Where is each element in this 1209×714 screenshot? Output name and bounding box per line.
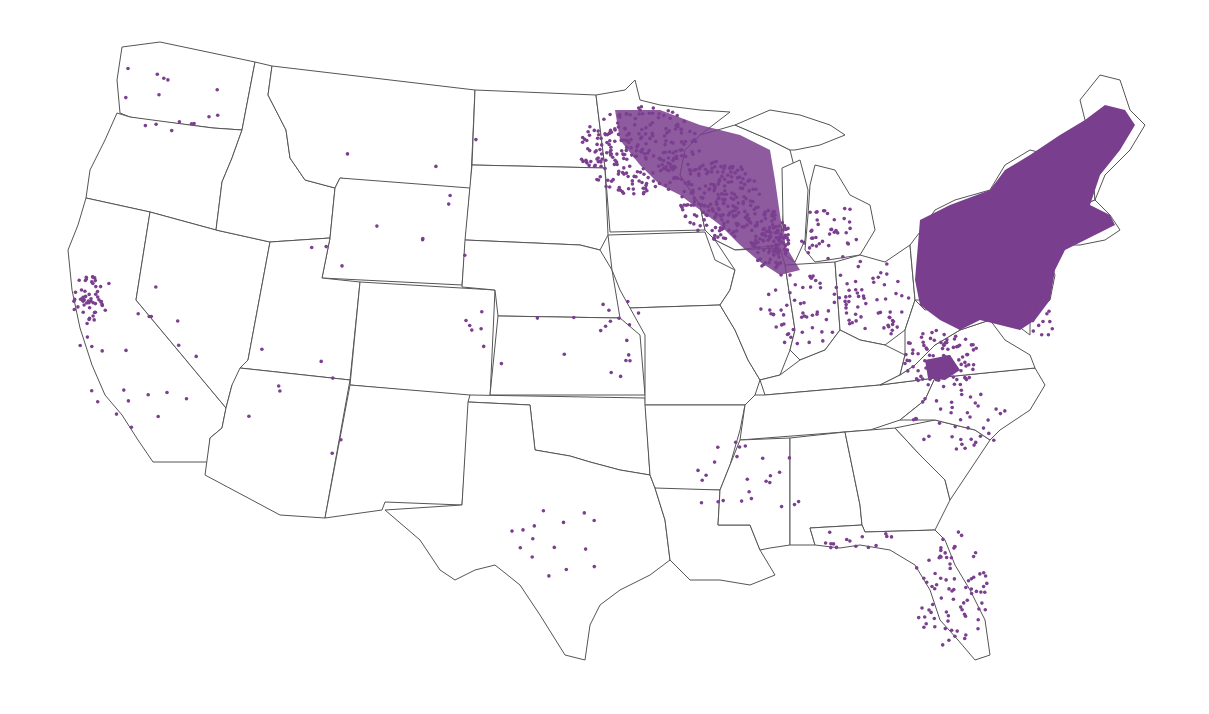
state-washington xyxy=(117,42,255,130)
density-northeast xyxy=(915,105,1135,330)
state-north-dakota xyxy=(472,90,605,168)
state-colorado xyxy=(350,282,495,398)
state-florida xyxy=(810,525,990,660)
state-new-mexico xyxy=(325,385,470,518)
us-dot-map xyxy=(0,0,1209,714)
state-south-dakota xyxy=(465,165,608,250)
state-iowa xyxy=(608,232,735,308)
state-wyoming xyxy=(322,178,470,285)
state-kansas xyxy=(490,316,645,395)
